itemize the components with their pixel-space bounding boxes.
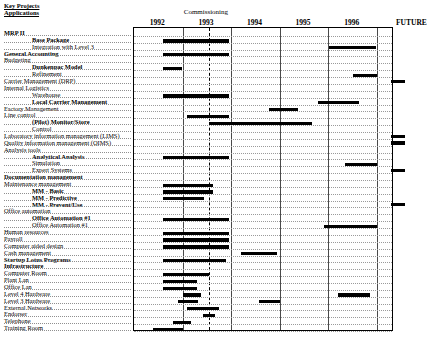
row-gridline (134, 242, 392, 243)
task-bar (163, 238, 229, 241)
row-gridline (134, 43, 392, 44)
task-bar-future (391, 80, 405, 83)
plot-area (133, 27, 393, 331)
row-gridline (134, 290, 392, 291)
row-gridline (134, 317, 392, 318)
label-leader-dots (4, 124, 131, 125)
task-bar (318, 101, 359, 104)
task-bar (163, 218, 229, 221)
task-bar (203, 314, 215, 317)
x-axis-tick-1996: 1996 (327, 18, 376, 27)
row-gridline (134, 159, 392, 160)
row-gridline (134, 256, 392, 257)
year-divider-1993 (183, 28, 184, 330)
row-gridline (134, 235, 392, 236)
row-gridline (134, 249, 392, 250)
row-gridline (134, 153, 392, 154)
task-bar (163, 259, 226, 262)
task-bar (345, 163, 377, 166)
gantt-chart: Key Projects Applications Commissioning … (0, 0, 448, 338)
row-gridline (134, 201, 392, 202)
task-bar (163, 190, 213, 193)
task-bar (153, 328, 182, 331)
year-divider-1996 (328, 28, 329, 330)
task-bar (259, 300, 279, 303)
page-title-line1: Key Projects (4, 2, 124, 9)
label-leader-dots (4, 330, 131, 331)
task-bar (163, 280, 197, 283)
row-gridline (134, 84, 392, 85)
year-divider-1994 (231, 28, 232, 330)
task-bar (163, 184, 213, 187)
row-gridline (134, 283, 392, 284)
row-gridline (134, 297, 392, 298)
x-axis-tick-1995: 1995 (279, 18, 328, 27)
row-gridline (134, 304, 392, 305)
row-gridline (134, 118, 392, 119)
row-gridline (134, 56, 392, 57)
task-bar (353, 74, 377, 77)
label-leader-dots (4, 234, 131, 235)
commissioning-annotation-label: Commissioning (182, 8, 231, 16)
task-bar (269, 108, 298, 111)
x-axis-tick-future: FUTURE (396, 18, 427, 27)
row-gridline (134, 91, 392, 92)
row-gridline (134, 221, 392, 222)
task-bar (163, 156, 229, 159)
page-title-line2: Applications (4, 9, 124, 16)
label-leader-dots (4, 90, 131, 91)
row-gridline (134, 214, 392, 215)
row-gridline (134, 63, 392, 64)
x-axis-tick-1992: 1992 (133, 18, 182, 27)
year-divider-1995 (280, 28, 281, 330)
row-gridline (134, 310, 392, 311)
task-bar (338, 293, 370, 296)
task-bar (178, 300, 198, 303)
row-gridline (134, 98, 392, 99)
task-bar-future (391, 169, 405, 172)
row-gridline (134, 146, 392, 147)
task-bar (163, 67, 182, 70)
task-bar-future (391, 203, 405, 206)
row-gridline (134, 139, 392, 140)
task-bar (324, 225, 377, 228)
x-axis-tick-1993: 1993 (182, 18, 231, 27)
label-leader-dots (4, 186, 131, 187)
task-bar (329, 46, 376, 49)
task-bar (209, 122, 312, 125)
page-title: Key Projects Applications (4, 2, 124, 16)
row-gridline (134, 166, 392, 167)
task-bar (163, 273, 209, 276)
row-gridline (134, 187, 392, 188)
row-gridline (134, 36, 392, 37)
task-bar (163, 53, 229, 56)
row-gridline (134, 194, 392, 195)
row-gridline (134, 269, 392, 270)
label-leader-dots (4, 69, 131, 70)
task-bar (163, 287, 197, 290)
commissioning-dashed-line (209, 28, 210, 330)
task-bar (163, 94, 229, 97)
row-gridline (134, 331, 392, 332)
row-gridline (134, 262, 392, 263)
task-bar-future (391, 141, 405, 144)
row-gridline (134, 125, 392, 126)
task-bar (173, 321, 191, 324)
task-bar (183, 293, 201, 296)
row-gridline (134, 77, 392, 78)
row-gridline (134, 207, 392, 208)
row-gridline (134, 324, 392, 325)
row-gridline (134, 50, 392, 51)
row-gridline (134, 111, 392, 112)
row-gridline (134, 276, 392, 277)
task-bar (187, 307, 219, 310)
row-gridline (134, 228, 392, 229)
task-bar (163, 197, 204, 200)
task-bar (163, 245, 229, 248)
task-bar (163, 232, 229, 235)
x-axis-tick-1994: 1994 (230, 18, 279, 27)
row-gridline (134, 180, 392, 181)
row-gridline (134, 105, 392, 106)
row-gridline (134, 173, 392, 174)
task-bar (187, 115, 229, 118)
